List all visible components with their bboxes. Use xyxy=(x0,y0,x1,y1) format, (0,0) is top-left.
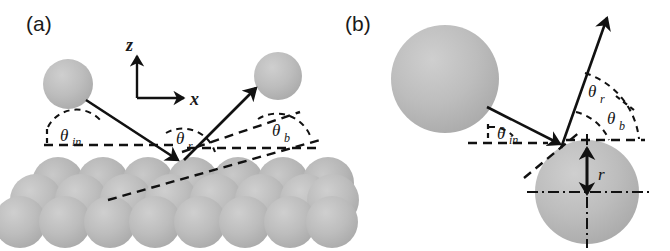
theta-symbol: θ xyxy=(607,109,615,128)
incoming-particle-sphere-b xyxy=(391,25,499,133)
theta-subscript: in xyxy=(509,133,518,147)
lattice-sphere xyxy=(174,196,226,248)
theta-r-label-b: θ r xyxy=(588,82,605,106)
radius-label: r xyxy=(598,165,605,184)
theta-symbol: θ xyxy=(272,121,280,140)
panel-a-label: (a) xyxy=(26,12,52,35)
theta-symbol: θ xyxy=(176,129,184,148)
lattice-sphere xyxy=(39,196,91,248)
z-axis-label: z xyxy=(125,35,133,55)
x-axis-label: x xyxy=(189,89,199,109)
coordinate-axes xyxy=(137,56,184,98)
panel-b-label: (b) xyxy=(345,12,371,35)
incoming-particle-sphere xyxy=(43,59,93,109)
theta-b-arc-b xyxy=(576,112,609,140)
lattice-sphere xyxy=(306,196,358,248)
theta-subscript: r xyxy=(600,92,605,106)
theta-subscript: b xyxy=(619,119,625,133)
theta-symbol: θ xyxy=(588,82,596,101)
figure-canvas: (a) (b) z x θ in θ r θ b θ in θ r θ b xyxy=(0,0,670,251)
lattice-sphere xyxy=(219,196,271,248)
panel-b xyxy=(391,18,650,248)
scattering-figure: (a) (b) z x θ in θ r θ b θ in θ r θ b xyxy=(0,0,670,251)
theta-symbol: θ xyxy=(60,126,68,145)
theta-b-label-b: θ b xyxy=(607,109,625,133)
theta-subscript: in xyxy=(72,135,81,149)
panel-a xyxy=(0,52,359,248)
lattice-sphere xyxy=(84,196,136,248)
outgoing-particle-sphere xyxy=(254,52,302,100)
incident-ray-arrow xyxy=(86,100,178,160)
theta-symbol: θ xyxy=(497,124,505,143)
theta-b-tick xyxy=(616,96,634,110)
theta-b-label-a: θ b xyxy=(272,121,290,145)
theta-in-arc xyxy=(48,110,101,127)
theta-r-label-a: θ r xyxy=(176,129,193,153)
reflected-ray-arrow-b xyxy=(561,18,607,148)
theta-subscript: r xyxy=(188,139,193,153)
theta-subscript: b xyxy=(284,131,290,145)
lattice-sphere xyxy=(129,196,181,248)
